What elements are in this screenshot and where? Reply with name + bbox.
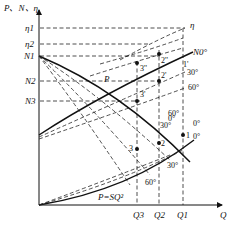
tick-eta2: η2 (25, 39, 34, 49)
fan-performance-diagram: P、N、η Q η1 η2 N1 N2 N3 Q3 Q2 Q1 η N0° 30… (0, 0, 227, 227)
svg-text:1': 1' (183, 60, 189, 69)
efficiency-label: η (190, 20, 195, 30)
point-3-prime (135, 99, 139, 103)
svg-text:3'': 3'' (140, 64, 147, 73)
point-1 (181, 133, 185, 137)
pressure-label: P (103, 74, 110, 84)
tick-q1: Q1 (177, 210, 188, 220)
svg-text:2': 2' (161, 71, 167, 80)
svg-text:1: 1 (186, 131, 190, 140)
pressure-curve-60 (39, 56, 150, 175)
tick-n3: N3 (24, 96, 36, 106)
svg-text:30°: 30° (187, 68, 198, 77)
svg-text:0°: 0° (193, 132, 200, 141)
tick-n1: N1 (23, 51, 35, 61)
system-curve-label: P=SQ² (97, 192, 124, 202)
power-label-0: N0° (192, 47, 208, 57)
svg-text:0°: 0° (193, 119, 200, 128)
efficiency-curve (120, 28, 185, 60)
tick-n2: N2 (24, 76, 36, 86)
svg-text:60°: 60° (145, 178, 156, 187)
svg-text:60°: 60° (168, 109, 179, 118)
svg-text:60°: 60° (188, 83, 199, 92)
x-axis-label: Q (220, 210, 227, 220)
svg-text:3: 3 (129, 144, 133, 153)
svg-text:2'': 2'' (161, 56, 168, 65)
tick-q2: Q2 (154, 210, 165, 220)
svg-text:3': 3' (140, 90, 146, 99)
svg-text:30°: 30° (167, 161, 178, 170)
point-3 (135, 147, 139, 151)
y-axis-label: P、N、η (3, 3, 39, 13)
tick-eta1: η1 (25, 23, 34, 33)
svg-text:30°: 30° (160, 121, 171, 130)
point-3-dprime (135, 61, 139, 65)
axes (39, 10, 222, 205)
svg-text:2: 2 (161, 139, 165, 148)
tick-q3: Q3 (133, 210, 144, 220)
